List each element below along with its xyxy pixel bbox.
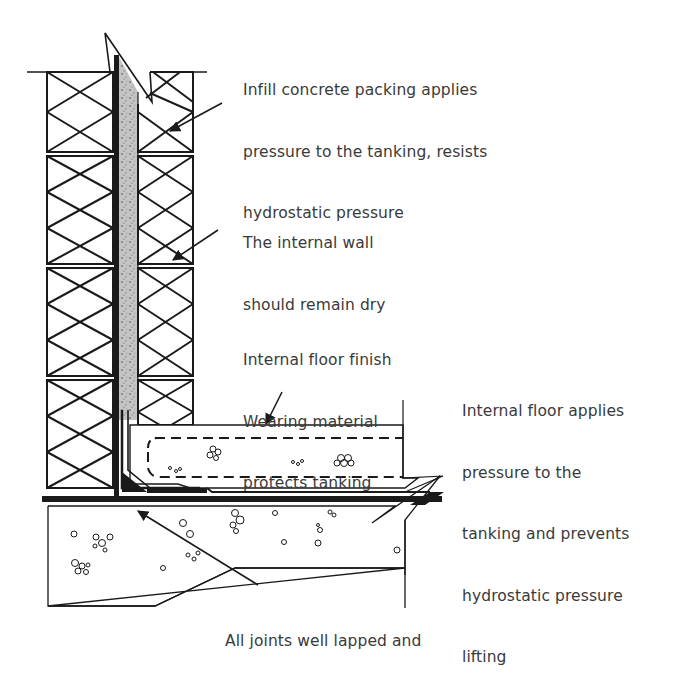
label-line: hydrostatic pressure [462,586,629,607]
arrow-joints [138,511,258,585]
arrow-infill [170,103,222,131]
label-line: pressure to the tanking, resists [243,142,487,163]
label-line: All joints well lapped and [225,631,430,652]
label-line: pressure to the [462,463,629,484]
concrete-infill [119,57,138,420]
arrow-internal-wall [173,230,218,260]
label-line: The internal wall [243,233,386,254]
label-line: tanking and prevents [462,524,629,545]
label-floor-finish: Internal floor finish Wearing material p… [243,309,392,514]
inner-blockwork-wall [138,72,193,425]
label-joints: All joints well lapped and fillet used t… [225,590,430,680]
tanking-membrane-vertical [114,55,119,500]
outer-blockwork-wall [47,72,113,488]
label-line: lifting [462,647,629,668]
label-line: Internal floor finish [243,350,392,371]
label-line: Internal floor applies [462,401,629,422]
label-internal-floor: Internal floor applies pressure to the t… [462,360,629,680]
label-line: Wearing material [243,412,392,433]
label-line: protects tanking [243,473,392,494]
label-line: Infill concrete packing applies [243,80,487,101]
